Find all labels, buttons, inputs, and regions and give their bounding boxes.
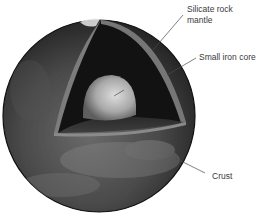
mantle-leader-line [153,15,183,50]
core-label: Small iron core [199,52,256,63]
crust-label: Crust [212,171,232,182]
planet-cutaway-diagram: Silicate rock mantle Small iron core Cru… [0,0,275,224]
mantle-label: Silicate rock mantle [187,4,233,25]
mantle-label-line1: Silicate rock [187,4,233,15]
planet-illustration [0,0,275,224]
mantle-label-line2: mantle [187,15,233,26]
